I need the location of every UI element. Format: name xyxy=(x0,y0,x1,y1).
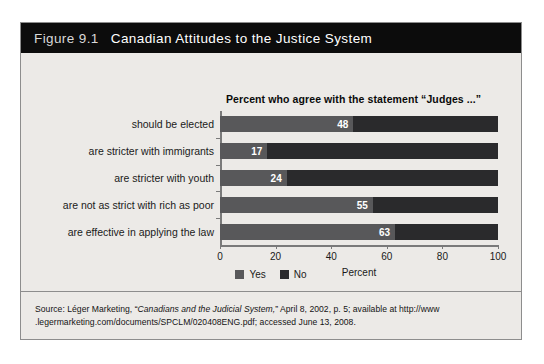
source-line-2: .legermarketing.com/documents/SPCLM/0204… xyxy=(35,317,356,327)
source-block: Source: Léger Marketing, “Canadians and … xyxy=(21,292,521,339)
x-tick xyxy=(276,245,277,249)
bar-value-label: 17 xyxy=(251,146,267,157)
x-tick xyxy=(442,245,443,249)
x-tick-label: 100 xyxy=(490,251,507,262)
bar-segment-yes[interactable] xyxy=(220,116,353,132)
category-label: are not as strict with rich as poor xyxy=(63,199,214,211)
bar-segment-no[interactable] xyxy=(373,197,498,213)
y-tick xyxy=(216,218,220,219)
figure-title-bar: Figure 9.1 Canadian Attitudes to the Jus… xyxy=(21,23,521,53)
chart-panel: Percent who agree with the statement “Ju… xyxy=(21,53,521,299)
bar-row[interactable]: 55 xyxy=(220,197,498,213)
x-axis-line xyxy=(220,245,498,247)
source-suffix: ” April 8, 2002, p. 5; available at http… xyxy=(275,304,439,314)
bar-segment-no[interactable] xyxy=(287,170,498,186)
x-tick-label: 20 xyxy=(270,251,281,262)
x-tick xyxy=(387,245,388,249)
figure-title: Canadian Attitudes to the Justice System xyxy=(111,31,372,46)
x-tick-label: 0 xyxy=(217,251,223,262)
bar-segment-no[interactable] xyxy=(353,116,498,132)
legend-item-yes[interactable]: Yes xyxy=(235,269,265,280)
legend-label: Yes xyxy=(249,269,265,280)
figure-container: Figure 9.1 Canadian Attitudes to the Jus… xyxy=(20,22,522,340)
category-label: are stricter with youth xyxy=(114,172,214,184)
bar-value-label: 48 xyxy=(337,119,353,130)
y-tick xyxy=(216,138,220,139)
bar-value-label: 55 xyxy=(357,199,373,210)
chart-subtitle: Percent who agree with the statement “Ju… xyxy=(226,93,481,105)
legend-swatch-icon xyxy=(235,270,244,279)
bar-segment-no[interactable] xyxy=(267,143,498,159)
source-prefix: Source: Léger Marketing, “ xyxy=(35,304,138,314)
chart-legend: YesNo xyxy=(21,269,521,280)
x-tick xyxy=(498,245,499,249)
legend-label: No xyxy=(294,269,307,280)
x-tick-label: 40 xyxy=(326,251,337,262)
category-labels: should be electedare stricter with immig… xyxy=(21,111,220,245)
bar-segment-yes[interactable] xyxy=(220,224,395,240)
category-label: should be elected xyxy=(132,118,214,130)
bar-row[interactable]: 48 xyxy=(220,116,498,132)
source-text: Source: Léger Marketing, “Canadians and … xyxy=(35,303,507,328)
y-tick xyxy=(216,191,220,192)
x-tick xyxy=(220,245,221,249)
category-label: are effective in applying the law xyxy=(68,226,214,238)
bar-segment-no[interactable] xyxy=(395,224,498,240)
bar-value-label: 24 xyxy=(271,173,287,184)
bar-row[interactable]: 17 xyxy=(220,143,498,159)
bar-row[interactable]: 63 xyxy=(220,224,498,240)
x-tick-label: 80 xyxy=(437,251,448,262)
bar-row[interactable]: 24 xyxy=(220,170,498,186)
x-tick-label: 60 xyxy=(381,251,392,262)
legend-item-no[interactable]: No xyxy=(280,269,307,280)
y-tick xyxy=(216,165,220,166)
source-work-title: Canadians and the Judicial System, xyxy=(138,304,276,314)
plot-area: 020406080100Percent4817245563 xyxy=(220,111,498,245)
category-label: are stricter with immigrants xyxy=(89,145,214,157)
bar-segment-yes[interactable] xyxy=(220,197,373,213)
bar-value-label: 63 xyxy=(379,226,395,237)
figure-number: Figure 9.1 xyxy=(34,31,99,46)
legend-swatch-icon xyxy=(280,270,289,279)
x-tick xyxy=(331,245,332,249)
